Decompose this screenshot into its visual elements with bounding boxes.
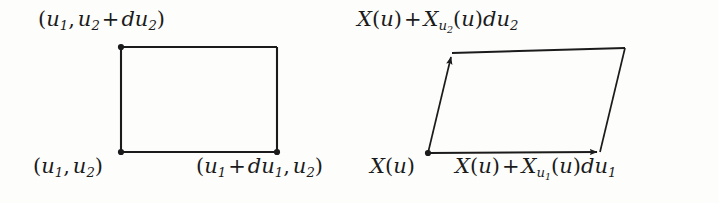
label-parallelogram-top-left: X(u)+Xu2(u)du2 (357, 9, 518, 30)
rectangle-outline (121, 47, 277, 152)
parallelogram-corner-dots (425, 150, 431, 156)
parallelogram-outline (428, 48, 625, 153)
label-rect-top-left: (u1,u2+du2) (38, 9, 165, 30)
rectangle-corner-dots (118, 44, 280, 155)
parallelogram-left-edge-arrow (428, 57, 451, 153)
label-rect-bottom-right: (u1+du1,u2) (196, 156, 323, 177)
parallelogram-right-edge (600, 48, 625, 152)
label-parallelogram-bottom-right: X(u)+Xu1(u)du1 (455, 156, 616, 177)
corner-dot-top-left (118, 44, 124, 50)
corner-dot-origin (425, 150, 431, 156)
parallelogram-bottom-edge-arrow (428, 152, 597, 153)
math-figure: (u1,u2+du2) (u1,u2) (u1+du1,u2) X(u)+Xu2… (0, 0, 719, 203)
label-parallelogram-bottom-left: X(u) (370, 156, 415, 177)
label-rect-bottom-left: (u1,u2) (33, 156, 103, 177)
parallelogram-top-edge (452, 48, 625, 53)
corner-dot-bottom-left (118, 149, 124, 155)
